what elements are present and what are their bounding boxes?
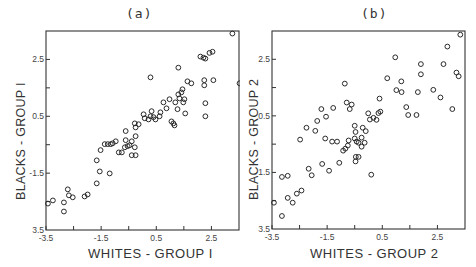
data-point <box>280 214 285 219</box>
data-point <box>456 74 461 79</box>
data-point <box>366 111 371 116</box>
data-point <box>94 158 99 163</box>
data-point <box>445 44 450 49</box>
data-point <box>313 128 318 133</box>
data-point <box>230 31 235 36</box>
data-point <box>323 136 328 141</box>
data-point <box>180 87 185 92</box>
data-point <box>458 32 463 37</box>
data-point <box>62 209 67 214</box>
data-point <box>335 139 340 144</box>
data-point <box>320 162 325 167</box>
data-point <box>203 101 208 106</box>
data-point <box>123 138 128 143</box>
data-point <box>418 62 423 67</box>
data-point <box>304 125 309 130</box>
data-point <box>385 76 390 81</box>
x-tick-label: -1.5 <box>94 233 109 243</box>
data-point <box>406 113 411 118</box>
data-point <box>97 169 102 174</box>
data-point <box>414 113 419 118</box>
data-point <box>324 114 329 119</box>
data-point <box>394 88 399 93</box>
data-point <box>202 83 207 88</box>
data-points <box>272 32 463 218</box>
data-point <box>399 90 404 95</box>
data-point <box>299 188 304 193</box>
data-point <box>353 130 358 135</box>
data-point <box>349 102 354 107</box>
data-point <box>210 49 215 54</box>
data-point <box>98 148 103 153</box>
data-point <box>198 54 203 59</box>
data-point <box>319 107 324 112</box>
data-point <box>182 97 187 102</box>
data-point <box>280 175 285 180</box>
data-point <box>285 173 290 178</box>
data-point <box>176 65 181 70</box>
data-point <box>363 129 368 134</box>
data-point <box>441 62 446 67</box>
data-point <box>309 173 314 178</box>
y-tick-label: 2.5 <box>258 54 270 64</box>
data-point <box>161 100 166 105</box>
data-point <box>62 200 67 205</box>
data-point <box>65 187 70 192</box>
y-tick-label: 0.5 <box>32 111 44 121</box>
data-point <box>393 55 398 60</box>
data-point <box>175 107 180 112</box>
data-point <box>294 191 299 196</box>
data-point <box>107 171 112 176</box>
scatter-panel-b: (b) BLACKS - GROUP 2 WHITES - GROUP 2 -3… <box>236 0 476 267</box>
data-point <box>173 100 178 105</box>
y-tick-label: 3.5 <box>32 225 44 235</box>
x-tick-label: 0.5 <box>150 233 162 243</box>
data-point <box>207 50 212 55</box>
plot-frame <box>46 31 239 230</box>
x-tick-label: 0.5 <box>376 232 388 242</box>
data-point <box>369 172 374 177</box>
data-point <box>418 72 423 77</box>
y-tick-label: 2.5 <box>32 54 44 64</box>
data-point <box>149 109 154 114</box>
data-point <box>119 150 124 155</box>
data-point <box>285 195 290 200</box>
data-point <box>185 79 190 84</box>
data-point <box>123 129 128 134</box>
data-point <box>404 105 409 110</box>
plot-area-a: -3.5-1.50.52.52.50.5-1.53.5 <box>0 0 240 267</box>
y-tick-label: 0.5 <box>258 111 270 121</box>
data-point <box>438 95 443 100</box>
y-tick-label: -1.5 <box>29 168 44 178</box>
data-point <box>352 123 357 128</box>
data-point <box>129 139 134 144</box>
data-point <box>327 168 332 173</box>
data-point <box>431 87 436 92</box>
scatter-panel-a: (a) BLACKS - GROUP I WHITES - GROUP I -3… <box>0 0 240 267</box>
data-point <box>377 96 382 101</box>
data-point <box>133 134 138 139</box>
data-point <box>132 145 137 150</box>
plot-area-b: -3.5-1.50.52.52.50.51.53.5 <box>236 0 476 267</box>
y-tick-label: 1.5 <box>258 167 270 177</box>
x-tick-label: 2.5 <box>432 232 444 242</box>
x-tick-label: -1.5 <box>320 232 335 242</box>
data-point <box>306 166 311 171</box>
data-point <box>330 139 335 144</box>
data-point <box>167 97 172 102</box>
data-point <box>359 135 364 140</box>
data-point <box>450 107 455 112</box>
data-point <box>344 100 349 105</box>
data-point <box>203 114 208 119</box>
data-point <box>183 111 188 116</box>
x-tick-label: 2.5 <box>206 233 218 243</box>
data-point <box>202 78 207 83</box>
data-point <box>315 119 320 124</box>
data-point <box>337 160 342 165</box>
y-tick-label: 3.5 <box>258 224 270 234</box>
data-point <box>342 81 347 86</box>
plot-frame <box>272 31 465 229</box>
data-point <box>298 137 303 142</box>
data-point <box>94 181 99 186</box>
data-point <box>181 100 186 105</box>
